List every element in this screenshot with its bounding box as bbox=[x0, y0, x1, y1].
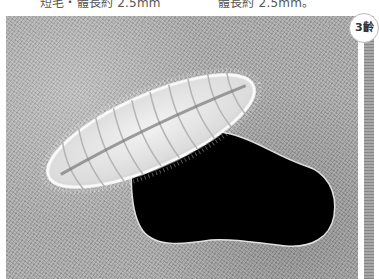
caption-right: 體長約 2.5mm。 bbox=[218, 0, 314, 10]
instar-badge: 3齡 bbox=[349, 13, 379, 43]
larva-photo bbox=[6, 16, 358, 279]
adjacent-photo bbox=[364, 16, 374, 279]
larva-illustration bbox=[6, 16, 358, 279]
caption-left: 短毛・體長約 2.5mm bbox=[40, 0, 161, 10]
